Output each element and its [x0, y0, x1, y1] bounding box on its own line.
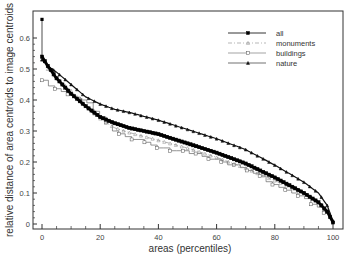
y-tick-label: 0.5 — [20, 65, 30, 74]
y-tick-label: 0 — [26, 220, 30, 229]
legend-label: buildings — [276, 49, 306, 58]
y-tick-label: 0.6 — [20, 34, 30, 43]
x-axis-label: areas (percentiles) — [149, 243, 232, 254]
x-tick-label: 40 — [154, 233, 162, 242]
x-tick-label: 20 — [96, 233, 104, 242]
figure-caption-cropped — [30, 258, 330, 267]
x-tick-label: 60 — [212, 233, 220, 242]
x-tick-label: 80 — [271, 233, 279, 242]
legend-label: nature — [276, 59, 297, 68]
y-axis: 00.10.20.30.40.50.6 — [20, 34, 37, 229]
legend-label: monuments — [276, 39, 315, 48]
y-tick-label: 0.2 — [20, 158, 30, 167]
x-tick-label: 100 — [327, 233, 340, 242]
y-tick-label: 0.4 — [20, 96, 30, 105]
y-tick-label: 0.1 — [20, 189, 30, 198]
y-axis-label: relative distance of area centroids to i… — [4, 3, 15, 237]
line-chart: 00.10.20.30.40.50.6 020406080100 allmonu… — [0, 0, 353, 267]
x-tick-label: 0 — [40, 233, 44, 242]
y-tick-label: 0.3 — [20, 127, 30, 136]
legend-label: all — [276, 29, 284, 38]
